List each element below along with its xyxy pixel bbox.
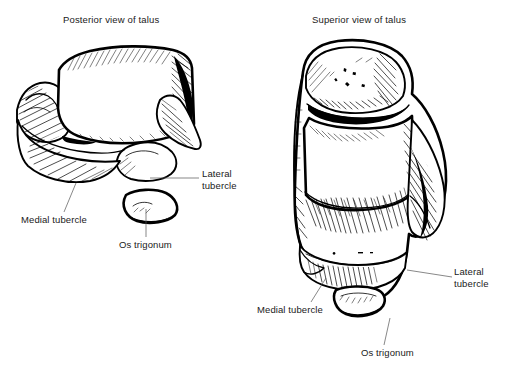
talus-line-art — [0, 0, 509, 375]
anatomy-figure: Posterior view of talus Superior view of… — [0, 0, 509, 375]
os-trigonum-lower-shadow — [129, 216, 170, 223]
medial-tubercle-ridge — [24, 108, 50, 113]
trochlear-superior-shading — [310, 124, 414, 184]
trochlear-surface-outline — [58, 46, 194, 143]
medial-tubercle-shading — [18, 84, 68, 143]
leader-lines — [64, 178, 452, 345]
trochlea-distal-edge — [305, 189, 413, 208]
lateral-process-deep-shadow — [409, 144, 428, 238]
label-posterior-medial-tubercle: Medial tubercle — [21, 214, 87, 226]
os-trigonum-superior — [334, 286, 385, 316]
medial-tubercle-groove — [26, 94, 60, 118]
leader-left-medial-tubercle — [64, 183, 76, 212]
lateral-process-superior-shading — [410, 132, 436, 240]
trochlea-right-shadow — [174, 56, 193, 129]
lateral-process-inner-line — [410, 196, 430, 228]
medial-tubercle-outline — [17, 82, 70, 142]
lateral-tubercle-ridge — [126, 151, 158, 156]
label-superior-medial-tubercle: Medial tubercle — [257, 304, 323, 316]
label-superior-lateral-tubercle: Lateral tubercle — [454, 266, 489, 289]
leader-right-os-trigonum — [384, 318, 390, 345]
posterior-groove-shadow — [62, 136, 96, 144]
os-trigonum-superior-arc — [341, 293, 376, 296]
label-superior-os-trigonum: Os trigonum — [361, 347, 414, 359]
lateral-process-shading — [161, 99, 193, 150]
head-neck-boundary-line — [307, 104, 409, 118]
label-posterior-os-trigonum: Os trigonum — [119, 239, 172, 251]
medial-wall-line — [294, 74, 303, 248]
posterior-margin-line — [306, 253, 407, 265]
talar-head-outline — [306, 47, 405, 113]
leader-right-lateral-tubercle — [407, 270, 452, 277]
lateral-process-outline — [157, 96, 201, 150]
os-trigonum-posterior — [124, 190, 178, 223]
superior-talus-drawing — [294, 40, 446, 316]
posterior-tubercle-shading — [308, 260, 377, 287]
os-trigonum-inner-arc — [133, 202, 152, 206]
posterior-talus-drawing — [17, 46, 201, 223]
os-trigonum-superior-shading — [340, 296, 373, 303]
panel-title-superior: Superior view of talus — [312, 14, 406, 25]
posterior-body-outline — [17, 120, 120, 182]
trochlea-shading — [68, 49, 193, 144]
trochlear-surface-superior — [304, 116, 414, 210]
superior-talus-silhouette — [295, 40, 446, 305]
head-neck-boundary-shadow — [308, 104, 408, 124]
lateral-process-superior — [408, 120, 445, 237]
talar-head-shading — [308, 54, 398, 109]
lateral-tubercle-knob — [117, 142, 177, 181]
medial-wall-shading — [294, 110, 307, 238]
posterior-body-shading — [28, 140, 112, 181]
os-trigonum-superior-shadow — [334, 305, 380, 316]
posterior-tubercles-region — [300, 246, 407, 290]
panel-title-posterior: Posterior view of talus — [63, 14, 159, 25]
posterior-body-superior-shading — [306, 188, 411, 233]
medial-tubercle-superior — [300, 250, 324, 274]
posterior-body-groove — [22, 126, 124, 153]
leader-right-medial-tubercle — [311, 278, 326, 302]
label-posterior-lateral-tubercle: Lateral tubercle — [202, 168, 237, 191]
